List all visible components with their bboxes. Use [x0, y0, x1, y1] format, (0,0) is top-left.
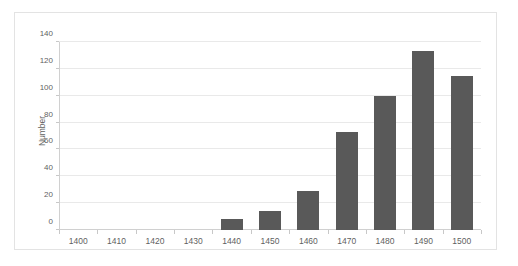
x-tick-label: 1420: [145, 237, 164, 246]
bar-slot: [366, 42, 404, 230]
y-tick-label: 0: [49, 218, 53, 226]
bar-slot: [404, 42, 442, 230]
y-tick-label: 140: [40, 30, 53, 38]
y-tick-label: 80: [44, 111, 53, 119]
x-tick-mark: [404, 230, 405, 234]
x-tick-label: 1410: [107, 237, 126, 246]
bar[interactable]: [374, 96, 396, 230]
x-tick-mark: [174, 230, 175, 234]
bar[interactable]: [259, 211, 281, 230]
x-tick-mark: [328, 230, 329, 234]
chart-figure: Number 020406080100120140 14001410142014…: [14, 12, 497, 250]
x-tick-label: 1460: [299, 237, 318, 246]
bar-slot: [59, 42, 97, 230]
y-tick-label: 40: [44, 164, 53, 172]
bar-slot: [328, 42, 366, 230]
bar-slot: [212, 42, 250, 230]
x-tick-label: 1500: [452, 237, 471, 246]
bar-slot: [443, 42, 481, 230]
x-tick-mark: [443, 230, 444, 234]
x-tick-label: 1450: [261, 237, 280, 246]
plot-area: 020406080100120140 140014101420143014401…: [59, 42, 481, 230]
x-tick-label: 1470: [337, 237, 356, 246]
bar-slot: [289, 42, 327, 230]
x-tick-mark: [251, 230, 252, 234]
y-tick-label: 60: [44, 137, 53, 145]
x-tick-mark: [481, 230, 482, 234]
y-tick-label: 100: [40, 84, 53, 92]
x-tick-mark: [136, 230, 137, 234]
x-tick-label: 1440: [222, 237, 241, 246]
bar[interactable]: [451, 76, 473, 230]
bars-layer: [59, 42, 481, 230]
x-tick-mark: [366, 230, 367, 234]
y-tick-label: 120: [40, 57, 53, 65]
bar[interactable]: [297, 191, 319, 230]
bar-slot: [136, 42, 174, 230]
bar-slot: [251, 42, 289, 230]
bar[interactable]: [412, 51, 434, 230]
y-tick-label: 20: [44, 191, 53, 199]
x-tick-label: 1480: [376, 237, 395, 246]
x-tick-label: 1400: [69, 237, 88, 246]
x-tick-mark: [97, 230, 98, 234]
bar[interactable]: [336, 132, 358, 230]
bar-slot: [97, 42, 135, 230]
x-tick-label: 1490: [414, 237, 433, 246]
bar[interactable]: [221, 219, 243, 230]
x-tick-mark: [59, 230, 60, 234]
x-tick-mark: [289, 230, 290, 234]
bar-slot: [174, 42, 212, 230]
x-tick-label: 1430: [184, 237, 203, 246]
x-tick-mark: [212, 230, 213, 234]
